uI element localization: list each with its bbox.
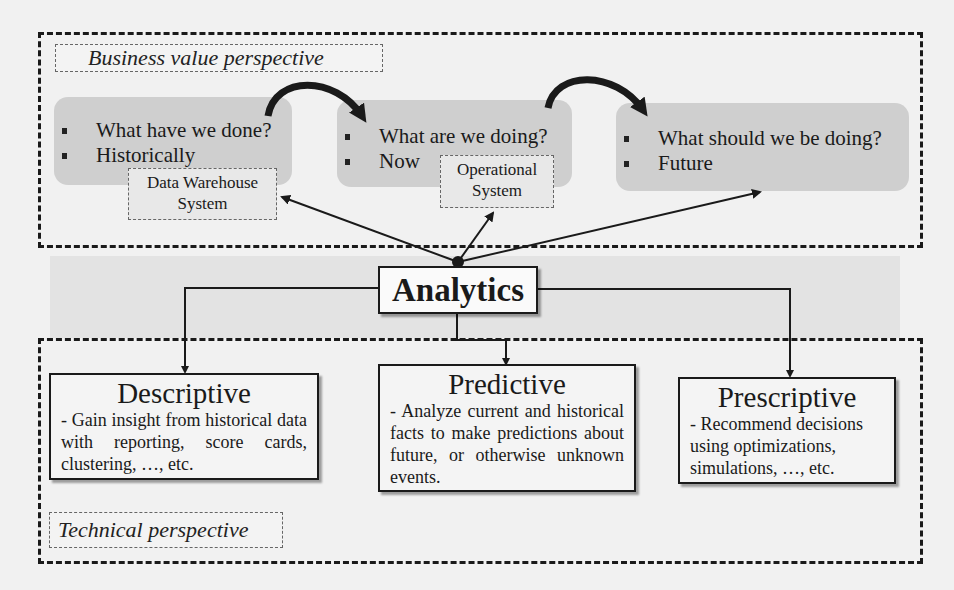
descriptive-box: Descriptive - Gain insight from historic…: [49, 373, 319, 480]
prescriptive-title: Prescriptive: [680, 381, 894, 413]
prescriptive-description: - Recommend decisions using optimization…: [680, 413, 894, 479]
predictive-title: Predictive: [380, 368, 634, 400]
descriptive-description: - Gain insight from historical data with…: [51, 409, 317, 475]
predictive-description: - Analyze current and historical facts t…: [380, 400, 634, 488]
analytics-node: Analytics: [378, 266, 538, 314]
prescriptive-box: Prescriptive - Recommend decisions using…: [678, 377, 896, 484]
descriptive-title: Descriptive: [51, 377, 317, 409]
predictive-box: Predictive - Analyze current and histori…: [378, 364, 636, 492]
